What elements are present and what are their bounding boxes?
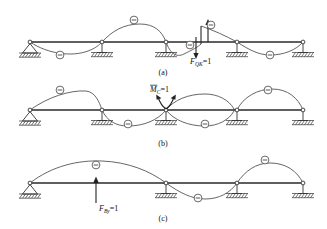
sign-minus xyxy=(92,161,100,169)
sign-minus xyxy=(56,86,64,94)
panel-c: FBy=1 (c) xyxy=(19,156,314,223)
influence-line-figure: FQK=1 (a) MC=1 xyxy=(0,0,327,229)
reaction-load-arrow-c xyxy=(93,177,99,204)
panel-caption-a: (a) xyxy=(159,68,168,77)
panel-caption-b: (b) xyxy=(158,139,168,148)
sign-minus xyxy=(266,51,274,59)
sign-minus xyxy=(207,21,215,29)
moment-load-arrows-b xyxy=(156,95,176,109)
influence-curve-a xyxy=(30,24,303,55)
sign-minus xyxy=(194,194,202,202)
sign-minus xyxy=(130,16,138,24)
load-label-c: FBy=1 xyxy=(98,204,118,214)
svg-text:MC=1: MC=1 xyxy=(149,85,169,95)
sign-minus xyxy=(201,120,209,128)
sign-minus xyxy=(124,120,132,128)
panel-a: FQK=1 (a) xyxy=(19,16,314,77)
load-label-a: FQK=1 xyxy=(189,57,211,67)
load-label-b: MC=1 xyxy=(149,85,169,95)
sign-minus xyxy=(264,86,272,94)
panel-b: MC=1 (b) xyxy=(19,85,314,148)
sign-minus xyxy=(186,41,194,49)
sign-minus xyxy=(56,51,64,59)
sign-minus xyxy=(261,156,269,164)
panel-caption-c: (c) xyxy=(159,214,168,223)
